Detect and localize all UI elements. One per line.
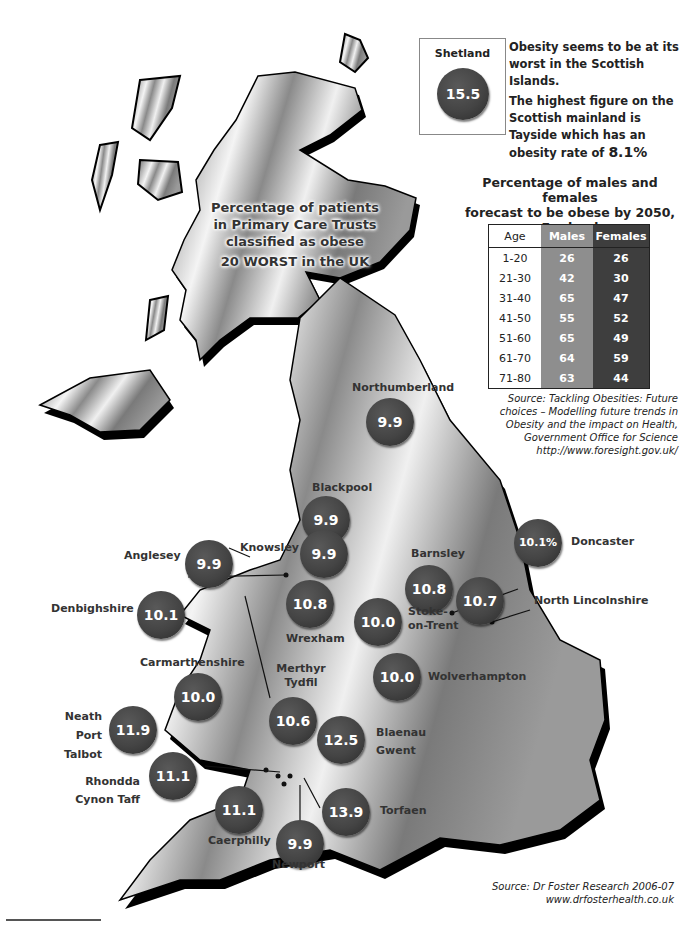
shetland-value-bubble: 15.5 <box>437 68 489 120</box>
footer-rule <box>6 919 101 921</box>
label-caerphilly: Caerphilly <box>208 834 271 848</box>
cell-females: 59 <box>593 348 650 368</box>
bubble-neath-port-talbot: 11.9 <box>109 706 157 754</box>
map-title-line: Percentage of patients <box>205 199 385 216</box>
cell-males: 64 <box>541 348 593 368</box>
label-line: on-Trent <box>408 619 459 633</box>
cell-age: 71-80 <box>489 368 542 389</box>
label-northumberland: Northumberland <box>352 381 454 395</box>
cell-age: 31-40 <box>489 288 542 308</box>
table-row: 71-806344 <box>489 368 650 389</box>
cell-males: 26 <box>541 248 593 269</box>
shetland-label: Shetland <box>420 47 505 60</box>
label-barnsley: Barnsley <box>411 547 465 561</box>
cell-males: 55 <box>541 308 593 328</box>
table-row: 51-606549 <box>489 328 650 348</box>
label-wrexham: Wrexham <box>286 632 345 646</box>
source-line: choices – Modelling future trends in <box>450 405 678 418</box>
bubble-rhondda-cynon-taff: 11.1 <box>149 752 197 800</box>
cell-females: 26 <box>593 248 650 269</box>
bubble-blaenau-gwent: 12.5 <box>317 716 365 764</box>
source-link[interactable]: http://www.foresight.gov.uk/ <box>450 444 678 457</box>
bubble-merthyr-tydfil: 10.6 <box>269 697 317 745</box>
cell-males: 65 <box>541 328 593 348</box>
bubble-wrexham: 10.8 <box>286 580 334 628</box>
cell-females: 47 <box>593 288 650 308</box>
label-line: Cynon Taff <box>60 791 140 809</box>
table-row: 21-304230 <box>489 268 650 288</box>
label-knowsley: Knowsley <box>240 541 299 555</box>
map-title-line: in Primary Care Trusts <box>205 216 385 233</box>
label-wolverhampton: Wolverhampton <box>428 670 526 684</box>
cell-males: 42 <box>541 268 593 288</box>
source-line: Government Office for Science <box>450 431 678 444</box>
label-north-lincolnshire: North Lincolnshire <box>534 594 648 608</box>
label-neath-port-talbot: NeathPortTalbot <box>56 707 102 764</box>
map-title-line: classified as obese <box>205 233 385 250</box>
tayside-rate: 8.1% <box>608 144 647 160</box>
label-anglesey: Anglesey <box>124 549 181 563</box>
label-blackpool: Blackpool <box>312 481 372 495</box>
label-line: Port <box>56 726 102 745</box>
table-title-line: forecast to be obese by 2050, <box>455 205 685 220</box>
source-line: Source: Dr Foster Research 2006-07 <box>440 880 674 893</box>
bubble-doncaster: 10.1% <box>514 519 562 567</box>
bubble-caerphilly: 11.1 <box>215 786 263 834</box>
cell-males: 63 <box>541 368 593 389</box>
cell-females: 30 <box>593 268 650 288</box>
label-denbighshire: Denbighshire <box>51 602 134 616</box>
cell-males: 65 <box>541 288 593 308</box>
note-line-2: The highest figure on the Scottish mainl… <box>509 93 689 162</box>
northern-ireland-shape <box>40 370 174 440</box>
label-newport: Newport <box>272 858 325 872</box>
bubble-northumberland: 9.9 <box>366 398 414 446</box>
map-subtitle: 20 WORST in the UK <box>205 253 385 270</box>
bubble-torfaen: 13.9 <box>322 788 370 836</box>
note-line-1: Obesity seems to be at its worst in the … <box>509 39 689 90</box>
cell-age: 51-60 <box>489 328 542 348</box>
table-row: 41-505552 <box>489 308 650 328</box>
map-title: Percentage of patients in Primary Care T… <box>205 199 385 270</box>
cell-females: 52 <box>593 308 650 328</box>
label-line: Stoke- <box>408 605 459 619</box>
bubble-wolverhampton: 10.0 <box>373 653 421 701</box>
bubble-carmarthenshire: 10.0 <box>174 673 222 721</box>
label-blaenau-gwent: BlaenauGwent <box>376 724 426 760</box>
table-row: 31-406547 <box>489 288 650 308</box>
map-source: Source: Dr Foster Research 2006-07 www.d… <box>440 880 674 906</box>
label-torfaen: Torfaen <box>380 804 427 818</box>
label-line: Gwent <box>376 742 426 760</box>
obesity-forecast-table: Age Males Females 1-202626 21-304230 31-… <box>488 224 650 389</box>
table-row: 1-202626 <box>489 248 650 269</box>
cell-age: 1-20 <box>489 248 542 269</box>
col-header-females: Females <box>593 225 650 248</box>
bubble-anglesey: 9.9 <box>185 540 233 588</box>
label-line: Rhondda <box>60 773 140 791</box>
note-line-2-text: The highest figure on the Scottish mainl… <box>509 94 674 160</box>
source-link[interactable]: www.drfosterhealth.co.uk <box>440 893 674 906</box>
label-line: Blaenau <box>376 724 426 742</box>
bubble-north-lincolnshire: 10.7 <box>456 577 504 625</box>
label-line: Tydfil <box>276 676 326 690</box>
shetland-callout: Shetland 15.5 <box>419 38 506 135</box>
table-title-line: Percentage of males and females <box>455 175 685 205</box>
cell-age: 21-30 <box>489 268 542 288</box>
table-source: Source: Tackling Obesities: Future choic… <box>450 392 678 457</box>
table-row: 61-706459 <box>489 348 650 368</box>
label-line: Neath <box>56 707 102 726</box>
bubble-denbighshire: 10.1 <box>137 591 185 639</box>
label-line: Talbot <box>56 745 102 764</box>
source-line: Obesity and the impact on Health, <box>450 418 678 431</box>
label-carmarthenshire: Carmarthenshire <box>140 656 245 670</box>
label-rhondda-cynon-taff: RhonddaCynon Taff <box>60 773 140 809</box>
bubble-stoke-on-trent: 10.0 <box>354 598 402 646</box>
label-line: Merthyr <box>276 662 326 676</box>
cell-age: 41-50 <box>489 308 542 328</box>
cell-females: 44 <box>593 368 650 389</box>
source-line: Source: Tackling Obesities: Future <box>450 392 678 405</box>
bubble-knowsley: 9.9 <box>300 530 348 578</box>
label-doncaster: Doncaster <box>571 535 634 549</box>
cell-females: 49 <box>593 328 650 348</box>
table-header-row: Age Males Females <box>489 225 650 248</box>
col-header-age: Age <box>489 225 542 248</box>
